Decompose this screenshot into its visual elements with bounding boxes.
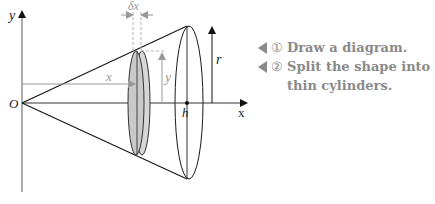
y-axis-label: y [7,8,16,23]
step-number: ① [271,38,283,57]
cone-bottom-edge [22,103,187,179]
disk-front [128,51,144,155]
y-height-label: y [163,70,172,85]
left-triangle-icon [258,42,267,54]
origin-label: O [9,96,19,111]
left-triangle-icon [258,61,267,73]
x-distance-label: x [105,69,112,84]
step-text: Draw a diagram. [287,38,407,57]
height-label: h [182,105,189,120]
step-number: ② [271,57,283,76]
delta-x-label: δx [128,0,140,13]
note-step-2: ② Split the shape into thin cylinders. [258,57,435,95]
x-axis-label: x [238,105,245,120]
step-text: Split the shape into thin cylinders. [287,57,435,95]
note-step-1: ① Draw a diagram. [258,38,435,57]
radius-label: r [216,52,222,67]
step-notes: ① Draw a diagram. ② Split the shape into… [258,38,435,95]
cone-volume-diagram: y O x δx x y r h [0,0,435,204]
